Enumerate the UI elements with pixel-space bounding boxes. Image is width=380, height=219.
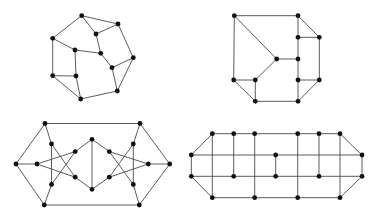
edge-a2-d2 — [109, 144, 133, 177]
edge-L-BL — [16, 164, 44, 205]
node-c2 — [107, 149, 112, 154]
graph-3-double-pentagram — [14, 121, 173, 207]
edge-TR-R — [140, 124, 170, 165]
node-K — [115, 89, 120, 94]
node-b1 — [210, 195, 215, 200]
node-t1 — [210, 131, 215, 136]
node-L — [14, 162, 19, 167]
edge-t6-mR — [340, 134, 362, 155]
edge-TL-L — [16, 124, 45, 165]
graph-4-ladder-octagon — [189, 131, 364, 200]
node-I — [296, 78, 301, 83]
edge-A-D — [53, 16, 82, 39]
edge-nR-b6 — [340, 176, 362, 197]
edge-BL-b — [44, 185, 51, 206]
node-D — [317, 35, 322, 40]
node-G — [231, 78, 236, 83]
graph-1-pentagonal-prism-like — [50, 13, 135, 101]
node-t4 — [295, 131, 300, 136]
node-Bm — [90, 187, 95, 192]
node-t6 — [338, 131, 343, 136]
node-L — [78, 97, 83, 102]
edge-B-D — [298, 16, 319, 38]
node-TR — [138, 121, 143, 126]
node-l1 — [35, 162, 40, 167]
node-b6 — [338, 195, 343, 200]
edge-d2-Bm — [92, 177, 109, 189]
edge-l1-d — [37, 164, 75, 177]
edge-TL-a — [45, 124, 52, 145]
node-b2 — [131, 182, 136, 187]
node-BR — [137, 203, 142, 208]
node-mR — [360, 153, 365, 158]
node-R — [167, 162, 172, 167]
edge-J-L — [298, 80, 319, 101]
node-J — [74, 74, 79, 79]
node-K — [253, 99, 258, 104]
edge-r1-d2 — [109, 164, 148, 177]
edge-G-H — [112, 58, 133, 68]
node-a2 — [131, 142, 136, 147]
node-mC — [273, 153, 278, 158]
node-BL — [42, 203, 47, 208]
graph-diagram-canvas — [0, 0, 380, 219]
node-nC — [273, 174, 278, 179]
graph-2-rectilinear — [231, 13, 321, 103]
node-mL — [189, 153, 194, 158]
node-TL — [43, 121, 48, 126]
edge-A-G — [234, 16, 235, 80]
edge-d-Bm — [75, 177, 92, 189]
node-d — [73, 175, 78, 180]
node-E — [274, 57, 279, 62]
edge-C-F — [96, 34, 101, 53]
node-r1 — [146, 162, 151, 167]
node-t3 — [252, 131, 257, 136]
node-t2 — [231, 131, 236, 136]
edge-H-K — [112, 68, 117, 91]
node-T — [90, 137, 95, 142]
node-L — [296, 99, 301, 104]
edge-E-F — [75, 50, 101, 53]
edge-G-K — [234, 80, 256, 101]
node-nR — [360, 174, 365, 179]
node-d2 — [107, 175, 112, 180]
node-a — [49, 142, 54, 147]
node-J — [317, 78, 322, 83]
node-E — [73, 48, 78, 53]
node-c — [73, 149, 78, 154]
edge-G-K — [117, 58, 133, 91]
edge-a-d — [52, 144, 76, 177]
node-C — [296, 35, 301, 40]
node-A — [232, 13, 237, 18]
node-C — [94, 32, 99, 37]
node-n5 — [317, 174, 322, 179]
node-I — [50, 73, 55, 78]
node-A — [79, 13, 84, 18]
edge-b2-c2 — [109, 152, 133, 185]
node-B — [116, 22, 121, 27]
edge-l1-c — [37, 152, 75, 164]
node-H — [253, 78, 258, 83]
node-H — [110, 65, 115, 70]
edge-A-E — [234, 16, 276, 59]
edge-c2-T — [92, 139, 109, 151]
edge-L-K — [81, 91, 118, 99]
edge-B-C — [96, 24, 118, 34]
node-b4 — [295, 195, 300, 200]
node-b3 — [252, 195, 257, 200]
edge-TR-a2 — [133, 124, 140, 145]
edge-mL-t1 — [191, 134, 212, 155]
node-G — [131, 55, 136, 60]
node-n2 — [231, 174, 236, 179]
edge-F-H — [101, 53, 112, 67]
node-F — [98, 51, 103, 56]
edge-nL-b1 — [191, 176, 212, 197]
node-F — [296, 57, 301, 62]
edge-c-T — [75, 139, 92, 151]
edge-BR-b2 — [133, 185, 139, 206]
edge-B-G — [118, 24, 133, 58]
node-b — [49, 182, 54, 187]
edge-R-BR — [139, 164, 169, 205]
edge-D-E — [53, 38, 75, 50]
graphs-svg — [0, 0, 380, 219]
